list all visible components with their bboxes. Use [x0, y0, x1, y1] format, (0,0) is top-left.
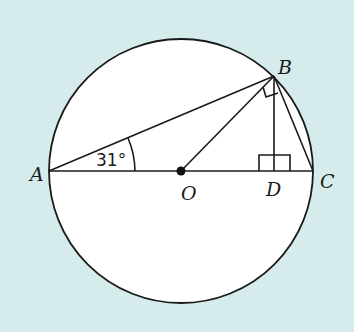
point-label-a: A: [28, 163, 44, 185]
point-label-b: B: [277, 56, 292, 78]
geometry-diagram: 31° A B C O D: [0, 0, 354, 332]
angle-label-a: 31°: [96, 150, 126, 170]
point-label-o: O: [181, 182, 197, 204]
point-label-d: D: [265, 178, 281, 200]
center-point-o: [177, 167, 186, 176]
point-label-c: C: [320, 170, 335, 192]
